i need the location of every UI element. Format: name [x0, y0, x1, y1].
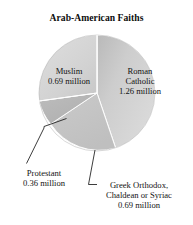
slice-label-roman-catholic-value: 1.26 million [104, 86, 176, 96]
slice-label-roman-catholic-name1: Roman [104, 66, 176, 76]
slice-label-muslim: Muslim 0.69 million [33, 66, 105, 86]
slice-label-greek-orthodox-name1: Greek Orthodox, [88, 180, 190, 190]
slice-label-protestant-name: Protestant [2, 168, 86, 178]
slice-label-roman-catholic: Roman Catholic 1.26 million [104, 66, 176, 97]
slice-label-muslim-value: 0.69 million [33, 76, 105, 86]
slice-label-greek-orthodox: Greek Orthodox, Chaldean or Syriac 0.69 … [88, 180, 190, 211]
pie-chart-figure: Arab-American Faiths [0, 0, 193, 225]
slice-label-protestant: Protestant 0.36 million [2, 168, 86, 188]
slice-label-greek-orthodox-value: 0.69 million [88, 200, 190, 210]
slice-label-roman-catholic-name2: Catholic [104, 76, 176, 86]
slice-label-muslim-name: Muslim [33, 66, 105, 76]
slice-label-greek-orthodox-name2: Chaldean or Syriac [88, 190, 190, 200]
slice-label-protestant-value: 0.36 million [2, 178, 86, 188]
